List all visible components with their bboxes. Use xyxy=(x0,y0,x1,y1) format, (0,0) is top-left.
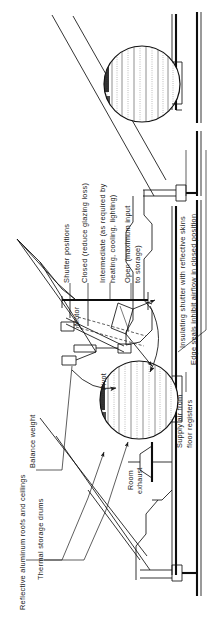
label-reflective-roofs: Reflective aluminum roofs and ceilings xyxy=(18,474,27,610)
leader-thermal-drums-arrow xyxy=(106,442,128,510)
balance-link xyxy=(76,352,96,360)
label-balance-weight: Balance weight xyxy=(28,414,37,468)
shutter-blade-skin-line xyxy=(120,306,129,331)
floor-step-profile xyxy=(136,500,158,580)
edge-seal-bracket-upper xyxy=(176,185,186,201)
label-intermediate-line1: Intermediate (as required by xyxy=(98,184,107,283)
lower-diagonal-planes xyxy=(40,418,150,570)
label-intermediate-line2: heating, cooling, lighting) xyxy=(108,194,117,283)
thermal-storage-drum-bottom xyxy=(100,360,178,440)
ground-diagonal xyxy=(88,490,140,560)
label-closed: Closed (reduce glazing loss) xyxy=(80,183,89,283)
label-open-line1: Open (maximum input xyxy=(123,206,132,283)
label-supply-air-line1: Supply air from xyxy=(175,395,184,448)
label-shutter-positions: Shutter positions xyxy=(62,224,71,283)
actuator-clevis xyxy=(118,344,131,353)
floor-step-profile-2 xyxy=(152,490,172,500)
label-supply-air-line2: floor registers xyxy=(185,399,194,448)
leader-thermal-drums xyxy=(44,510,106,560)
label-insulating-shutter: Insulating shutter with reflective skins xyxy=(178,216,187,348)
label-room-exhaust-line1: Room xyxy=(127,470,135,490)
leader-balance-weight xyxy=(36,366,72,470)
thermal-storage-drum-top xyxy=(104,44,180,124)
label-pivot: Pivot xyxy=(100,373,108,390)
figure-container: Shutter positions Closed (reduce glazing… xyxy=(0,0,217,633)
balance-weight-block xyxy=(62,356,76,365)
drum-bottom-outline xyxy=(100,361,178,439)
leader-roofs-arrow xyxy=(88,452,104,498)
label-thermal-storage-drums: Thermal storage drums xyxy=(36,498,45,580)
drum-top-outline xyxy=(104,46,180,122)
label-edge-seals: Edge seals inhibit airflow in closed pos… xyxy=(189,214,198,365)
label-open-line2: to storage) xyxy=(133,245,142,283)
solar-building-section-diagram: Shutter positions Closed (reduce glazing… xyxy=(0,0,217,633)
blade-top-pointer xyxy=(133,300,155,309)
label-room-exhaust-line2: exhaust xyxy=(136,467,144,494)
shutter-travel-arc xyxy=(150,306,159,372)
label-motor: Motor xyxy=(73,306,81,326)
